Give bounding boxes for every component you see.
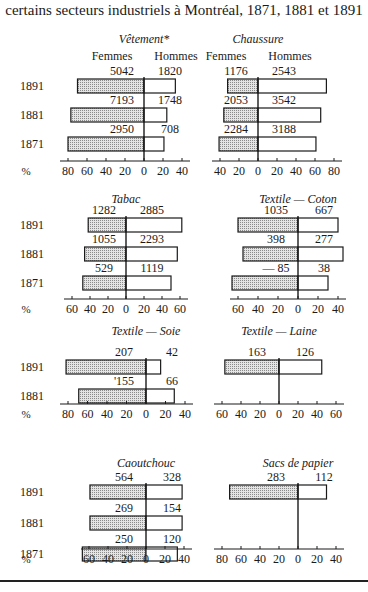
bar-femmes [243,247,298,261]
panel-textile-soie: Textile — Soie207421891'1556618818060402… [20,324,193,421]
tick-label: 20 [159,552,171,566]
count-femmes: 1055 [92,232,116,246]
year-label: 1891 [20,485,44,499]
tick-label: 40 [101,407,113,421]
panel-sacs-de-papier: Sacs de papier2831128060402002040 [214,456,344,566]
bar-femmes [230,485,298,499]
tick-label: 40 [102,552,114,566]
legend-hommes: Hommes [154,49,198,63]
tick-label: 80 [216,552,228,566]
bar-hommes [258,108,321,122]
tick-label: 40 [311,407,323,421]
tick-label: 0 [123,302,129,316]
bar-hommes [258,137,316,151]
panel-v-tement-: Vêtement*FemmesHommes5042182018917193174… [20,32,198,178]
tick-label: 60 [216,407,228,421]
tick-label: 40 [214,164,226,178]
percent-label: % [21,408,30,420]
bar-hommes [258,79,326,93]
panel-chaussure: ChaussureFemmesHommes1176254320533542228… [206,32,342,178]
count-femmes: 2950 [110,122,134,136]
bar-hommes [146,389,174,403]
percent-label: % [21,165,30,177]
bar-hommes [298,276,328,290]
count-hommes: 2885 [140,203,164,217]
tick-label: 20 [157,164,169,178]
count-hommes: 1748 [158,93,182,107]
count-femmes: — 85 [262,261,290,275]
bar-hommes [144,137,164,151]
year-label: 1871 [20,137,44,151]
tick-label: 20 [160,407,172,421]
tick-label: 20 [121,552,133,566]
count-hommes: 66 [166,374,178,388]
tick-label: 60 [83,552,95,566]
count-femmes: 269 [115,501,133,515]
tick-label: 20 [121,407,133,421]
tick-label: 20 [138,302,150,316]
count-femmes: 207 [115,345,133,359]
tick-label: 20 [271,164,283,178]
tick-label: 60 [330,407,342,421]
tick-label: 20 [311,552,323,566]
tick-label: 40 [290,164,302,178]
count-femmes: 283 [267,470,285,484]
pyramid-charts: Vêtement*FemmesHommes5042182018917193174… [0,0,368,592]
count-hommes: 328 [163,470,181,484]
count-hommes: 112 [315,470,333,484]
count-femmes: 564 [115,470,133,484]
count-hommes: 3188 [272,122,296,136]
bar-hommes [279,360,322,374]
year-label: 1881 [20,516,44,530]
year-label: 1881 [20,108,44,122]
tick-label: 0 [143,407,149,421]
year-label: 1891 [20,360,44,374]
count-hommes: 154 [163,501,181,515]
count-hommes: 277 [315,232,333,246]
count-hommes: 2293 [140,232,164,246]
tick-label: 40 [176,164,188,178]
tick-label: 0 [143,552,149,566]
tick-label: 20 [233,164,245,178]
tick-label: 0 [255,164,261,178]
count-hommes: 708 [161,122,179,136]
count-femmes: 250 [115,532,133,546]
tick-label: 60 [309,164,321,178]
year-label: 1881 [20,389,44,403]
tick-label: 60 [235,552,247,566]
bottom-rule [0,580,368,582]
tick-label: 40 [179,407,191,421]
bar-hommes [146,360,161,374]
panel-title: Textile — Laine [241,324,317,338]
count-femmes: 7193 [110,93,134,107]
bar-hommes [126,218,182,232]
tick-label: 20 [312,302,324,316]
bar-femmes [232,276,298,290]
tick-label: 0 [295,552,301,566]
percent-label: % [21,553,30,565]
bar-hommes [144,79,175,93]
count-hommes: 126 [296,345,314,359]
count-hommes: 38 [318,261,330,275]
year-label: 1881 [20,247,44,261]
count-hommes: 667 [315,203,333,217]
panel-textile-coton: Textile — Coton1035667398277— 8538604020… [230,192,346,316]
year-label: 1891 [20,79,44,93]
panel-tabac: Tabac12822885189110552293188152911191871… [20,192,188,316]
bar-femmes [66,360,146,374]
tick-label: 0 [295,302,301,316]
bar-hommes [146,485,182,499]
tick-label: 20 [292,407,304,421]
bar-hommes [298,247,343,261]
panel-caoutchouc: Caoutchouc564328189126915418812501201871… [20,456,192,566]
count-femmes: 1035 [264,203,288,217]
count-femmes: 163 [248,345,266,359]
tick-label: 20 [272,302,284,316]
bar-femmes [225,360,279,374]
count-hommes: 1820 [158,64,182,78]
tick-label: 80 [62,164,74,178]
panel-title: Chaussure [233,32,285,46]
panel-title: Caoutchouc [117,456,176,470]
tick-label: 0 [276,407,282,421]
tick-label: 40 [100,164,112,178]
